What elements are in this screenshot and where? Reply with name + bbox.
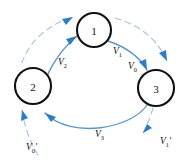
label-v0: V0 <box>128 62 137 73</box>
arc-node3-to-node2-solid <box>45 105 147 128</box>
prime-mark-v0: ′ <box>35 142 37 152</box>
arrowhead-node3-outgoing-dashed <box>143 124 152 133</box>
arrowhead-node2-to-node1-dashed <box>62 17 73 25</box>
figure-canvas: 1 2 3 V1 V0 V2 V3 V0′ V1′ <box>0 0 187 165</box>
label-v1: V1 <box>113 47 122 58</box>
label-v2: V2 <box>58 58 67 69</box>
arc-node1-to-node3-dashed <box>115 18 167 61</box>
node-1-label: 1 <box>91 25 97 37</box>
label-v1-prime: V1′ <box>160 137 171 148</box>
label-v0-subscript: 0 <box>134 66 137 73</box>
node-2-label: 2 <box>30 81 36 93</box>
arrowhead-node1-to-node3-dashed <box>159 50 167 61</box>
label-v3: V3 <box>95 130 104 141</box>
arrowhead-node3-to-node2-dashed <box>21 110 28 121</box>
label-v2-subscript: 2 <box>64 62 67 69</box>
label-v0-prime: V0′ <box>26 143 37 154</box>
diagram-svg: 1 2 3 <box>0 0 187 165</box>
prime-mark-v1: ′ <box>169 136 171 146</box>
label-v3-subscript: 3 <box>101 134 104 141</box>
node-3-label: 3 <box>153 83 159 95</box>
arrowhead-node2-to-node1-solid <box>66 36 77 45</box>
label-v1-subscript: 1 <box>119 51 122 58</box>
